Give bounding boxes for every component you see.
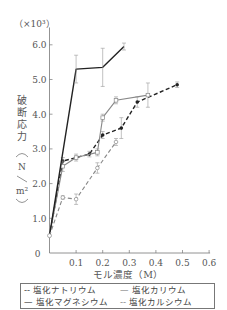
y-tick-label: 2.0 (32, 179, 47, 189)
origin-label: 0 (35, 249, 41, 259)
legend-label: 塩化マグネシウム (36, 296, 108, 308)
series-2 (50, 43, 126, 236)
origin-marker (48, 234, 52, 238)
x-axis-label: モル濃度（M） (93, 269, 163, 280)
line-chart: 0.10.20.30.40.50.61.02.03.04.05.06.00 （×… (0, 0, 227, 282)
svg-text:破: 破 (17, 94, 27, 106)
y-tick-label: 3.0 (32, 144, 47, 154)
x-tick-label: 0.3 (122, 258, 137, 268)
svg-text:N: N (18, 162, 26, 172)
solid-line-icon: — (24, 296, 33, 308)
dashed-line-icon: -- (24, 284, 30, 296)
plot-area (48, 43, 180, 238)
legend-label: 塩化カルシウム (129, 296, 192, 308)
y-multiplier: （×10³） (14, 19, 55, 29)
x-tick-label: 0.2 (96, 258, 110, 268)
x-tick-label: 0.5 (175, 258, 190, 268)
dashed-line-icon: -- (120, 296, 126, 308)
y-tick-label: 4.0 (32, 110, 47, 120)
y-tick-label: 5.0 (32, 75, 47, 85)
x-tick-label: 0.6 (202, 258, 217, 268)
svg-text:m²: m² (16, 186, 29, 196)
legend-item-calcium: -- 塩化カルシウム (120, 296, 212, 308)
legend-item-sodium: -- 塩化ナトリウム (24, 284, 120, 296)
legend-label: 塩化ナトリウム (33, 284, 96, 296)
series-0 (50, 82, 180, 236)
svg-text:断: 断 (17, 106, 27, 118)
legend-item-potassium: — 塩化カリウム (120, 284, 212, 296)
solid-line-icon: — (120, 284, 129, 296)
y-tick-label: 6.0 (32, 40, 47, 50)
axes: 0.10.20.30.40.50.61.02.03.04.05.06.00 (32, 27, 216, 268)
legend: -- 塩化ナトリウム — 塩化カリウム — 塩化マグネシウム -- 塩化カルシウ… (20, 283, 215, 309)
x-tick-label: 0.1 (69, 258, 83, 268)
svg-text:応: 応 (17, 118, 27, 130)
legend-item-magnesium: — 塩化マグネシウム (24, 296, 120, 308)
series-3 (50, 138, 119, 235)
y-tick-label: 1.0 (32, 214, 47, 224)
y-axis-label: 破断応力Nm² (16, 94, 29, 203)
legend-label: 塩化カリウム (132, 284, 186, 296)
x-tick-label: 0.4 (149, 258, 164, 268)
svg-text:力: 力 (17, 130, 27, 142)
